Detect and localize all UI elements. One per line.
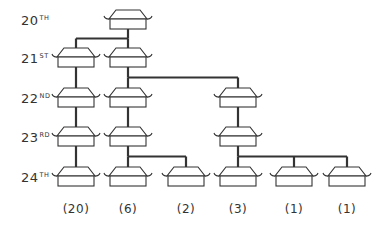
- count-label: (20): [63, 202, 90, 216]
- family-tree-diagram: 20TH 21ST 22ND 23RD 24TH (20) (6) (2) (3…: [0, 0, 383, 230]
- count-label: (6): [119, 202, 138, 216]
- shrine-icon: [52, 48, 100, 67]
- shrine-icon: [52, 127, 100, 146]
- shrine-icon: [270, 167, 318, 186]
- shrine-icon: [104, 10, 152, 29]
- count-label: (1): [338, 202, 357, 216]
- shrine-icon: [162, 167, 210, 186]
- count-label: (1): [285, 202, 304, 216]
- count-label: (2): [177, 202, 196, 216]
- shrine-icon: [104, 48, 152, 67]
- shrine-icon: [214, 167, 262, 186]
- shrine-icon: [52, 88, 100, 107]
- count-label: (3): [229, 202, 248, 216]
- shrine-icon: [323, 167, 371, 186]
- shrine-icon: [214, 127, 262, 146]
- shrine-icon: [52, 167, 100, 186]
- shrine-icon: [104, 127, 152, 146]
- shrine-icon: [104, 167, 152, 186]
- shrine-icon: [214, 88, 262, 107]
- shrine-icon: [104, 88, 152, 107]
- tree-graphic: [0, 0, 383, 230]
